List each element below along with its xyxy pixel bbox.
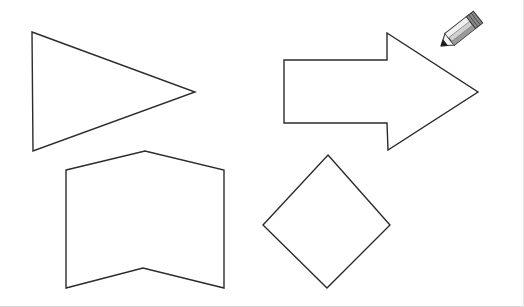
shape-layer <box>0 0 524 307</box>
shape-banner-pentagon[interactable] <box>66 151 224 288</box>
shape-diamond[interactable] <box>263 155 390 288</box>
drawing-canvas[interactable] <box>0 0 524 307</box>
shape-triangle[interactable] <box>32 32 195 151</box>
shape-right-arrow[interactable] <box>284 33 478 150</box>
